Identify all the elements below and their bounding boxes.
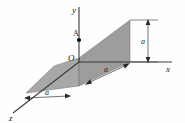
z-dimension-label: a [45,88,49,97]
x-axis-label: x [165,64,170,74]
vertical-dimension-label: a [141,37,145,46]
z-axis-label: z [8,113,13,123]
figure-svg: y x z O A a a a [0,0,185,123]
vertical-plate [79,20,130,86]
z-dimension-arrow-left [24,96,30,101]
mechanics-figure: y x z O A a a a [0,0,185,123]
origin-label: O [68,53,75,63]
point-a-marker [77,38,81,42]
y-axis-label: y [71,5,76,15]
point-a-label: A [73,29,79,38]
horizontal-plate [26,58,79,93]
z-dimension-arrow-right [65,94,71,99]
x-dimension-label: a [104,65,108,74]
